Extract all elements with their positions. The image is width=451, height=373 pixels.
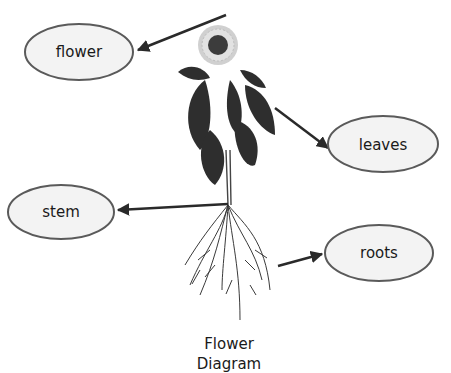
label-flower-text: flower (56, 43, 103, 61)
flower-diagram: flower leaves stem roots Flower Diagram (0, 0, 451, 373)
stem-illustration (226, 150, 231, 205)
roots-arrow (278, 254, 322, 266)
label-flower: flower (25, 24, 133, 80)
stem-arrow (118, 204, 228, 210)
diagram-title-line2: Diagram (197, 355, 261, 373)
diagram-title-line1: Flower (204, 335, 254, 353)
label-stem-text: stem (42, 203, 80, 221)
label-leaves-text: leaves (359, 136, 408, 154)
label-roots: roots (325, 225, 433, 281)
leaves-arrow (275, 108, 328, 148)
label-roots-text: roots (360, 244, 398, 262)
roots-illustration (185, 205, 270, 320)
label-leaves: leaves (328, 116, 438, 172)
flower-head-illustration (198, 25, 238, 65)
label-stem: stem (8, 185, 114, 239)
sunflower-plant-illustration (178, 25, 275, 320)
